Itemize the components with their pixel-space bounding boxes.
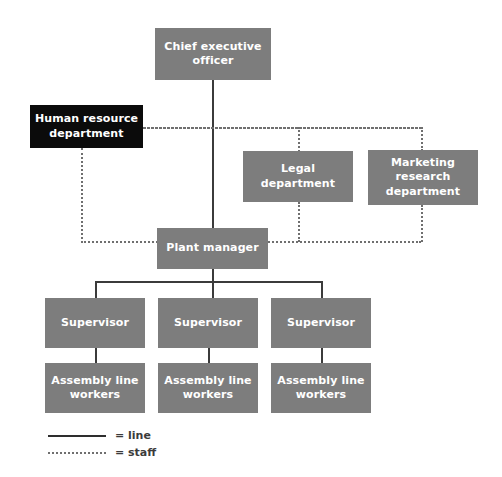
line-bus-to-sup1	[95, 281, 97, 298]
org-node-label-alw1: Assembly line workers	[49, 374, 141, 402]
org-node-sup1[interactable]: Supervisor	[45, 298, 145, 348]
org-node-sup2[interactable]: Supervisor	[158, 298, 258, 348]
line-plant-to-bus	[212, 269, 214, 298]
line-bus-to-sup3	[321, 281, 323, 298]
org-node-alw3[interactable]: Assembly line workers	[271, 363, 371, 413]
line-sup3-to-alw3	[321, 348, 323, 363]
org-node-label-marketing: Marketing research department	[372, 156, 474, 198]
line-sup2-to-alw2	[208, 348, 210, 363]
org-node-label-sup3: Supervisor	[287, 316, 355, 330]
line-ceo-to-plant	[212, 80, 214, 228]
org-node-legal[interactable]: Legal department	[243, 151, 353, 202]
dotted-line-swatch-icon	[48, 452, 106, 454]
org-node-ceo[interactable]: Chief executive officer	[155, 28, 271, 80]
org-node-alw1[interactable]: Assembly line workers	[45, 363, 145, 413]
org-node-hr[interactable]: Human resource department	[30, 105, 143, 148]
org-node-label-alw2: Assembly line workers	[162, 374, 254, 402]
org-node-label-sup1: Supervisor	[61, 316, 129, 330]
org-node-plant[interactable]: Plant manager	[157, 228, 268, 269]
legend-row-legend-staff: = staff	[48, 444, 156, 461]
org-node-label-alw3: Assembly line workers	[275, 374, 367, 402]
org-node-label-ceo: Chief executive officer	[159, 40, 267, 68]
org-node-alw2[interactable]: Assembly line workers	[158, 363, 258, 413]
line-sup1-to-alw1	[95, 348, 97, 363]
org-node-label-legal: Legal department	[247, 162, 349, 190]
org-node-label-hr: Human resource department	[34, 112, 139, 140]
org-node-label-plant: Plant manager	[166, 241, 258, 255]
org-node-label-sup2: Supervisor	[174, 316, 242, 330]
org-node-marketing[interactable]: Marketing research department	[368, 150, 478, 205]
solid-line-swatch-icon	[48, 435, 106, 437]
staff-marketing-down	[421, 205, 423, 242]
staff-hr-right-stub	[143, 127, 421, 129]
staff-marketing-up	[421, 127, 423, 151]
legend-label-legend-line: = line	[115, 429, 151, 442]
legend-label-legend-staff: = staff	[115, 446, 156, 459]
org-node-sup3[interactable]: Supervisor	[271, 298, 371, 348]
chart-legend: = line= staff	[48, 427, 156, 461]
org-chart-canvas: Chief executive officerHuman resource de…	[0, 0, 502, 477]
legend-row-legend-line: = line	[48, 427, 156, 444]
line-supervisor-bus	[95, 281, 321, 283]
staff-hr-down	[81, 148, 83, 243]
staff-legal-up	[298, 127, 300, 152]
staff-legal-down	[298, 202, 300, 242]
